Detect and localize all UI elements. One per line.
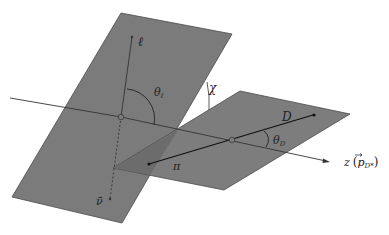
w-vertex bbox=[118, 114, 124, 120]
d-meson-label: D bbox=[281, 110, 292, 124]
decay-angles-diagram: ℓ θℓ χ D θD π ν̄ z(pD*) bbox=[0, 0, 389, 235]
chi-label: χ bbox=[208, 81, 217, 95]
lepton-label: ℓ bbox=[138, 34, 144, 49]
pion-label: π bbox=[172, 160, 181, 173]
d-endpoint-dot bbox=[312, 113, 315, 116]
antineutrino-label: ν̄ bbox=[96, 195, 103, 208]
dstar-vertex bbox=[229, 137, 235, 143]
pi-endpoint-dot bbox=[147, 162, 150, 165]
antineutrino-endpoint-dot bbox=[109, 198, 111, 200]
lepton-endpoint-dot bbox=[131, 36, 134, 39]
z-axis-label: z(pD*) bbox=[343, 155, 378, 170]
z-axis-arrowhead bbox=[323, 159, 331, 164]
